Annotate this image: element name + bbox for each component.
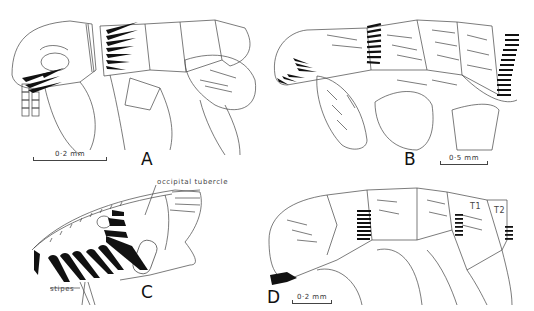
panel-label-a: A — [141, 151, 153, 168]
scale-bar-a: 0·2 mm — [33, 150, 107, 161]
annotation-t1: T1 — [470, 202, 481, 211]
genal-comb-d — [270, 272, 297, 285]
panel-c: occipital tubercle stipes C — [0, 170, 267, 311]
annotation-t2: T2 — [494, 206, 505, 215]
pronotal-comb-d — [357, 210, 371, 240]
comb-t2 — [505, 226, 513, 240]
panel-d-drawing — [267, 170, 534, 311]
annotation-stipes: stipes — [50, 285, 74, 293]
panel-b-drawing — [267, 0, 534, 170]
panel-label-b: B — [404, 151, 416, 168]
genal-comb-c — [34, 210, 148, 282]
panel-label-d: D — [267, 289, 280, 306]
panel-d: T1 T2 D 0·2 mm — [267, 170, 534, 311]
pronotal-comb-b — [367, 23, 381, 64]
genal-comb — [22, 68, 64, 93]
panel-c-drawing — [0, 170, 267, 311]
comb-t1 — [455, 214, 463, 236]
panel-label-c: C — [141, 284, 153, 301]
annotation-occipital-tubercle: occipital tubercle — [157, 178, 228, 186]
panel-a-drawing — [0, 0, 267, 170]
pronotal-comb — [106, 22, 138, 70]
abdominal-comb-b — [497, 34, 519, 96]
scale-bar-d: 0·2 mm — [292, 293, 332, 304]
scale-bar-b: 0·5 mm — [440, 154, 488, 165]
panel-a: 0·2 mm A — [0, 0, 267, 170]
panel-b: B 0·5 mm — [267, 0, 534, 170]
